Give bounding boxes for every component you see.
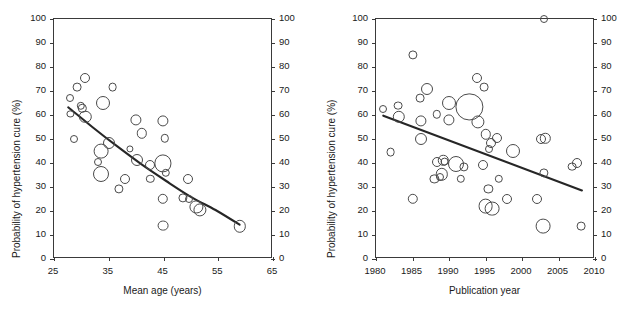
ytick-label-right-20: 20 xyxy=(279,205,290,215)
data-point-bubble xyxy=(415,133,427,145)
ytick-label-left-10: 10 xyxy=(357,229,368,239)
xtick-65 xyxy=(273,257,274,261)
data-point-bubble xyxy=(131,154,143,166)
data-point-bubble xyxy=(572,158,582,168)
ytick-label-right-60: 60 xyxy=(601,109,612,119)
panel-mean-age: 0010102020303040405050606070708080909010… xyxy=(0,0,315,313)
ytick-label-left-90: 90 xyxy=(35,37,46,47)
data-point-bubble xyxy=(120,174,130,184)
ytick-label-left-80: 80 xyxy=(357,61,368,71)
data-point-bubble xyxy=(183,174,193,184)
ytick-label-left-80: 80 xyxy=(35,61,46,71)
ytick-label-left-20: 20 xyxy=(35,205,46,215)
panel-publication-year: 0010102020303040405050606070708080909010… xyxy=(315,0,629,313)
xtick-2010 xyxy=(595,257,596,261)
ytick-label-right-50: 50 xyxy=(601,133,612,143)
ytick-label-right-70: 70 xyxy=(601,85,612,95)
data-point-bubble xyxy=(506,144,520,158)
data-point-bubble xyxy=(158,220,169,231)
data-point-bubble xyxy=(393,101,402,110)
ytick-label-left-90: 90 xyxy=(357,37,368,47)
data-point-bubble xyxy=(96,96,110,110)
figure-two-panel-scatter: 0010102020303040405050606070708080909010… xyxy=(0,0,629,313)
data-point-bubble xyxy=(492,133,502,143)
xtick-label-55: 55 xyxy=(212,266,223,276)
data-point-bubble xyxy=(536,219,551,234)
ytick-label-right-100: 100 xyxy=(279,13,295,23)
ytick-label-right-40: 40 xyxy=(279,157,290,167)
ytick-label-right-100: 100 xyxy=(601,13,617,23)
x-axis-title-right: Publication year xyxy=(375,285,594,296)
plot-area-left xyxy=(54,19,271,257)
ytick-label-left-70: 70 xyxy=(35,85,46,95)
ytick-label-left-30: 30 xyxy=(35,181,46,191)
data-point-bubble xyxy=(442,96,456,110)
ytick-label-right-90: 90 xyxy=(279,37,290,47)
xtick-label-2000: 2000 xyxy=(510,266,531,276)
data-point-bubble xyxy=(478,160,488,170)
y-axis-title-left: Probability of hypertension cure (%) xyxy=(11,100,22,258)
xtick-label-1990: 1990 xyxy=(437,266,458,276)
ytick-label-left-50: 50 xyxy=(35,133,46,143)
ytick-label-right-0: 0 xyxy=(601,253,606,263)
data-point-bubble xyxy=(386,147,395,156)
ytick-label-right-20: 20 xyxy=(601,205,612,215)
ytick-label-right-40: 40 xyxy=(601,157,612,167)
data-point-bubble xyxy=(485,145,493,153)
x-axis-title-left: Mean age (years) xyxy=(53,285,272,296)
xtick-label-25: 25 xyxy=(48,266,59,276)
data-point-bubble xyxy=(415,94,424,103)
ytick-label-left-50: 50 xyxy=(357,133,368,143)
data-point-bubble xyxy=(485,201,500,216)
ytick-label-right-50: 50 xyxy=(279,133,290,143)
data-point-bubble xyxy=(502,194,512,204)
ytick-label-left-100: 100 xyxy=(30,13,46,23)
data-point-bubble xyxy=(532,194,542,204)
ytick-label-right-0: 0 xyxy=(279,253,284,263)
ytick-label-left-60: 60 xyxy=(35,109,46,119)
y-axis-title-right: Probability of hypertension cure (%) xyxy=(326,100,337,258)
ytick-label-right-70: 70 xyxy=(279,85,290,95)
data-point-bubble xyxy=(379,105,387,113)
xtick-label-1985: 1985 xyxy=(401,266,422,276)
xtick-label-45: 45 xyxy=(157,266,168,276)
data-point-bubble xyxy=(421,83,433,95)
data-point-bubble xyxy=(73,83,82,92)
ytick-label-left-40: 40 xyxy=(35,157,46,167)
ytick-label-left-30: 30 xyxy=(357,181,368,191)
ytick-label-left-0: 0 xyxy=(363,253,368,263)
data-point-bubble xyxy=(436,173,444,181)
ytick-label-left-10: 10 xyxy=(35,229,46,239)
ytick-label-right-30: 30 xyxy=(601,181,612,191)
ytick-label-right-80: 80 xyxy=(279,61,290,71)
ytick-label-right-10: 10 xyxy=(279,229,290,239)
data-point-bubble xyxy=(93,166,109,182)
data-point-bubble xyxy=(472,73,482,83)
xtick-label-35: 35 xyxy=(102,266,113,276)
data-point-bubble xyxy=(480,83,489,92)
ytick-label-right-90: 90 xyxy=(601,37,612,47)
data-point-bubble xyxy=(80,73,90,83)
ytick-label-right-10: 10 xyxy=(601,229,612,239)
data-point-bubble xyxy=(66,94,74,102)
xtick-label-2010: 2010 xyxy=(583,266,604,276)
ytick-label-left-20: 20 xyxy=(357,205,368,215)
data-point-bubble xyxy=(540,15,548,23)
ytick-label-left-40: 40 xyxy=(357,157,368,167)
plot-frame-left xyxy=(53,18,272,258)
plot-area-right xyxy=(376,19,593,257)
ytick-label-right-80: 80 xyxy=(601,61,612,71)
xtick-label-65: 65 xyxy=(267,266,278,276)
xtick-label-2005: 2005 xyxy=(547,266,568,276)
data-point-bubble xyxy=(577,222,586,231)
data-point-bubble xyxy=(70,135,78,143)
ytick-label-left-60: 60 xyxy=(357,109,368,119)
xtick-label-1995: 1995 xyxy=(474,266,495,276)
ytick-label-right-30: 30 xyxy=(279,181,290,191)
data-point-bubble xyxy=(108,83,117,92)
data-point-bubble xyxy=(94,158,102,166)
xtick-label-1980: 1980 xyxy=(364,266,385,276)
plot-frame-right xyxy=(375,18,594,258)
ytick-label-right-60: 60 xyxy=(279,109,290,119)
ytick-label-left-0: 0 xyxy=(41,253,46,263)
